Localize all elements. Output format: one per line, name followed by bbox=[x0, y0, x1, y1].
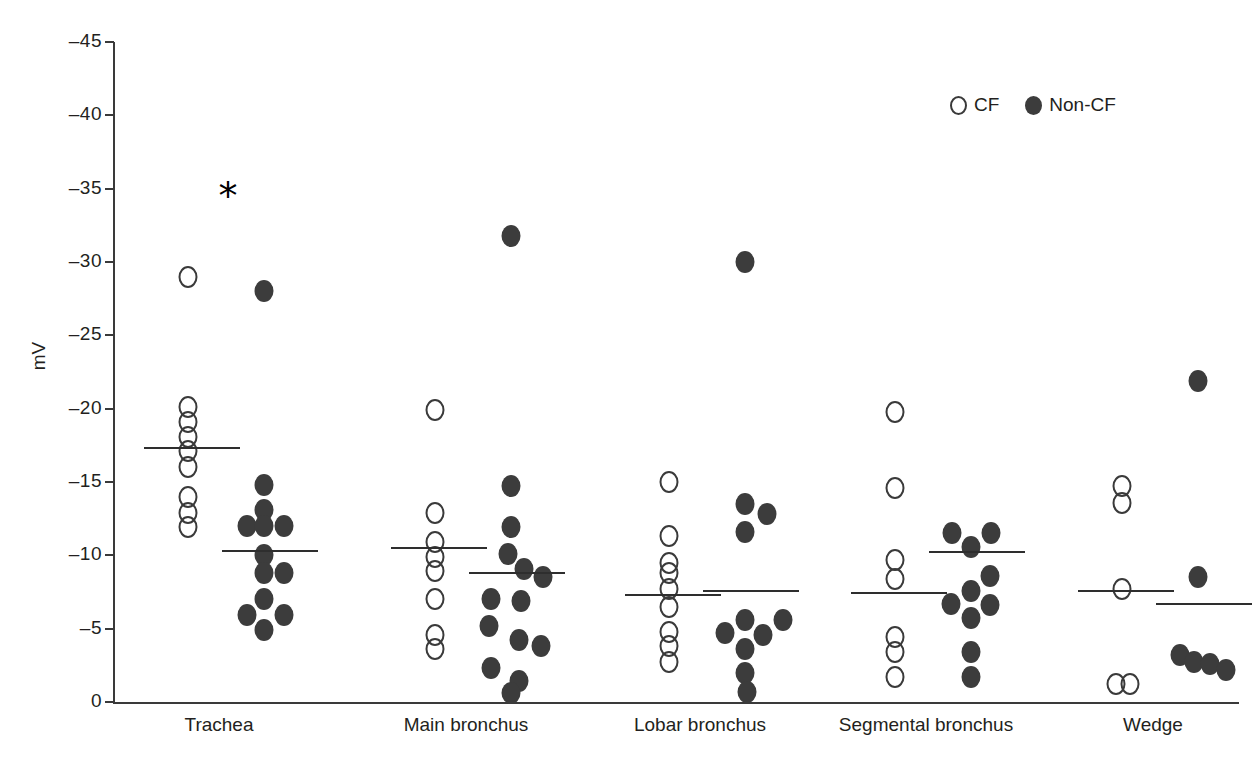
y-axis-tick-label: –5 bbox=[44, 618, 102, 637]
mean-line-cf bbox=[1078, 590, 1174, 592]
data-point-noncf bbox=[716, 622, 735, 644]
data-point-noncf bbox=[982, 522, 1001, 544]
y-axis-tick-label: –25 bbox=[44, 324, 102, 343]
legend-item-noncf: Non-CF bbox=[1025, 94, 1116, 116]
y-axis-tick bbox=[105, 554, 114, 556]
mean-line-cf bbox=[144, 447, 240, 449]
data-point-noncf bbox=[736, 493, 755, 515]
data-point-cf bbox=[660, 471, 679, 493]
data-point-noncf bbox=[275, 562, 294, 584]
data-point-cf bbox=[179, 266, 198, 288]
data-point-cf bbox=[426, 638, 445, 660]
data-point-cf bbox=[426, 560, 445, 582]
y-axis-tick bbox=[105, 701, 114, 703]
data-point-noncf bbox=[480, 615, 499, 637]
y-axis-tick bbox=[105, 41, 114, 43]
data-point-cf bbox=[426, 588, 445, 610]
filled-circle-icon bbox=[1025, 96, 1042, 115]
y-axis-title: mV bbox=[28, 331, 50, 381]
data-point-noncf bbox=[736, 609, 755, 631]
data-point-noncf bbox=[255, 280, 274, 302]
x-axis-category-label: Main bronchus bbox=[404, 714, 529, 736]
data-point-noncf bbox=[499, 543, 518, 565]
significance-asterisk: * bbox=[219, 177, 238, 215]
data-point-noncf bbox=[255, 474, 274, 496]
y-axis-line bbox=[113, 42, 115, 703]
data-point-cf bbox=[886, 401, 905, 423]
data-point-noncf bbox=[515, 558, 534, 580]
x-axis-category-label: Lobar bronchus bbox=[634, 714, 766, 736]
data-point-cf bbox=[660, 651, 679, 673]
data-point-noncf bbox=[962, 607, 981, 629]
y-axis-tick-label: –40 bbox=[44, 104, 102, 123]
data-point-noncf bbox=[532, 635, 551, 657]
data-point-cf bbox=[886, 666, 905, 688]
x-axis-category-label: Wedge bbox=[1123, 714, 1183, 736]
data-point-noncf bbox=[512, 590, 531, 612]
data-point-noncf bbox=[275, 604, 294, 626]
data-point-noncf bbox=[736, 521, 755, 543]
data-point-noncf bbox=[736, 251, 755, 273]
legend-label: CF bbox=[974, 94, 999, 116]
legend-item-cf: CF bbox=[950, 94, 999, 116]
data-point-noncf bbox=[255, 515, 274, 537]
data-point-noncf bbox=[736, 638, 755, 660]
data-point-noncf bbox=[962, 641, 981, 663]
mean-line-noncf bbox=[703, 590, 799, 592]
data-point-cf bbox=[886, 641, 905, 663]
y-axis-tick bbox=[105, 188, 114, 190]
data-point-noncf bbox=[758, 503, 777, 525]
mean-line-noncf bbox=[222, 550, 318, 552]
data-point-cf bbox=[886, 477, 905, 499]
data-point-noncf bbox=[1189, 370, 1208, 392]
data-point-noncf bbox=[534, 566, 553, 588]
y-axis-tick bbox=[105, 408, 114, 410]
data-point-cf bbox=[660, 525, 679, 547]
y-axis-tick-label: –35 bbox=[44, 178, 102, 197]
data-point-noncf bbox=[255, 619, 274, 641]
y-axis-tick-label: –15 bbox=[44, 471, 102, 490]
data-point-noncf bbox=[1189, 566, 1208, 588]
mean-line-noncf bbox=[929, 551, 1025, 553]
data-point-noncf bbox=[255, 588, 274, 610]
data-point-noncf bbox=[502, 682, 521, 704]
data-point-noncf bbox=[482, 588, 501, 610]
legend-label: Non-CF bbox=[1049, 94, 1116, 116]
mean-line-cf bbox=[391, 547, 487, 549]
data-point-noncf bbox=[502, 475, 521, 497]
data-point-noncf bbox=[774, 609, 793, 631]
y-axis-tick bbox=[105, 628, 114, 630]
data-point-cf bbox=[179, 456, 198, 478]
y-axis-tick-label: –45 bbox=[44, 31, 102, 50]
open-circle-icon bbox=[950, 96, 967, 115]
mean-line-cf bbox=[625, 594, 721, 596]
data-point-noncf bbox=[502, 225, 521, 247]
data-point-noncf bbox=[738, 681, 757, 703]
mean-line-noncf bbox=[469, 572, 565, 574]
y-axis-tick bbox=[105, 261, 114, 263]
data-point-noncf bbox=[510, 629, 529, 651]
x-axis-category-label: Trachea bbox=[185, 714, 254, 736]
data-point-noncf bbox=[943, 522, 962, 544]
data-point-noncf bbox=[962, 536, 981, 558]
mean-line-noncf bbox=[1156, 603, 1252, 605]
x-axis-category-label: Segmental bronchus bbox=[839, 714, 1013, 736]
mean-line-cf bbox=[851, 592, 947, 594]
data-point-noncf bbox=[255, 562, 274, 584]
data-point-noncf bbox=[962, 666, 981, 688]
data-point-cf bbox=[426, 399, 445, 421]
data-point-noncf bbox=[482, 657, 501, 679]
data-point-cf bbox=[426, 502, 445, 524]
y-axis-tick-label: 0 bbox=[44, 691, 102, 710]
x-axis-line bbox=[113, 702, 1239, 704]
y-axis-tick-label: –10 bbox=[44, 544, 102, 563]
data-point-cf bbox=[1113, 492, 1132, 514]
y-axis-tick-labels: –45–40–35–30–25–20–15–10–50 bbox=[30, 0, 102, 767]
data-point-noncf bbox=[754, 624, 773, 646]
y-axis-tick-label: –30 bbox=[44, 251, 102, 270]
data-point-cf bbox=[179, 516, 198, 538]
data-point-noncf bbox=[1217, 659, 1236, 681]
data-point-cf bbox=[886, 568, 905, 590]
data-point-noncf bbox=[942, 593, 961, 615]
